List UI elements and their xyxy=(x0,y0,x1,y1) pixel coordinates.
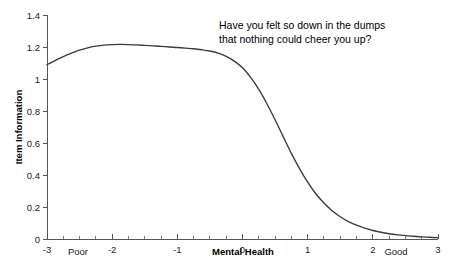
x-tick-label: 2 xyxy=(370,244,375,255)
y-axis-ticks xyxy=(43,15,47,239)
x-tick-label: -3 xyxy=(43,244,51,255)
y-tick-label: 0 xyxy=(35,234,40,245)
y-axis-tick-labels: 00.20.40.60.811.21.4 xyxy=(27,10,40,245)
item-information-curve xyxy=(47,44,438,237)
annotation-line-2: that nothing could cheer you up? xyxy=(219,33,372,45)
x-anchor-high-label: Good xyxy=(384,246,407,257)
y-axis-group: 00.20.40.60.811.21.4 xyxy=(27,10,47,245)
y-tick-label: 1 xyxy=(35,74,40,85)
item-information-chart: 00.20.40.60.811.21.4 -3-2-10123 Mental H… xyxy=(0,0,453,271)
x-anchor-low-label: Poor xyxy=(68,246,88,257)
x-tick-label: -2 xyxy=(108,244,116,255)
chart-canvas: 00.20.40.60.811.21.4 -3-2-10123 Mental H… xyxy=(0,0,453,271)
y-tick-label: 0.4 xyxy=(27,170,40,181)
x-tick-label: 1 xyxy=(305,244,310,255)
y-tick-label: 0.8 xyxy=(27,106,40,117)
x-axis-title: Mental Health xyxy=(212,246,274,257)
x-tick-label: -1 xyxy=(173,244,181,255)
x-tick-label: 3 xyxy=(435,244,440,255)
annotation-line-1: Have you felt so down in the dumps xyxy=(219,19,385,31)
y-tick-label: 0.2 xyxy=(27,202,40,213)
y-tick-label: 0.6 xyxy=(27,138,40,149)
y-tick-label: 1.4 xyxy=(27,10,40,21)
y-axis-title: Item Information xyxy=(13,90,24,165)
y-tick-label: 1.2 xyxy=(27,42,40,53)
x-axis-ticks xyxy=(47,234,438,239)
